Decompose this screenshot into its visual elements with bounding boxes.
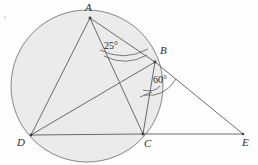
vertex-label-B: B [160, 45, 167, 56]
geometry-figure: A B C D E 25° 60° [0, 0, 258, 165]
vertex-dot-E [242, 133, 244, 135]
angle-label-BAC: 25° [104, 41, 118, 51]
scan-speck [4, 16, 6, 19]
vertex-label-A: A [85, 2, 92, 13]
vertex-dot-D [30, 134, 33, 137]
vertex-label-D: D [17, 137, 25, 148]
vertex-label-E: E [242, 137, 249, 148]
vertex-dot-A [89, 17, 92, 20]
vertex-dot-B [154, 61, 157, 64]
vertex-dot-C [142, 133, 145, 136]
circumscribed-circle [11, 10, 163, 162]
geometry-canvas [0, 0, 258, 165]
vertex-label-C: C [144, 138, 151, 149]
angle-label-CBE: 60° [153, 75, 167, 85]
segment-BE [155, 62, 243, 134]
